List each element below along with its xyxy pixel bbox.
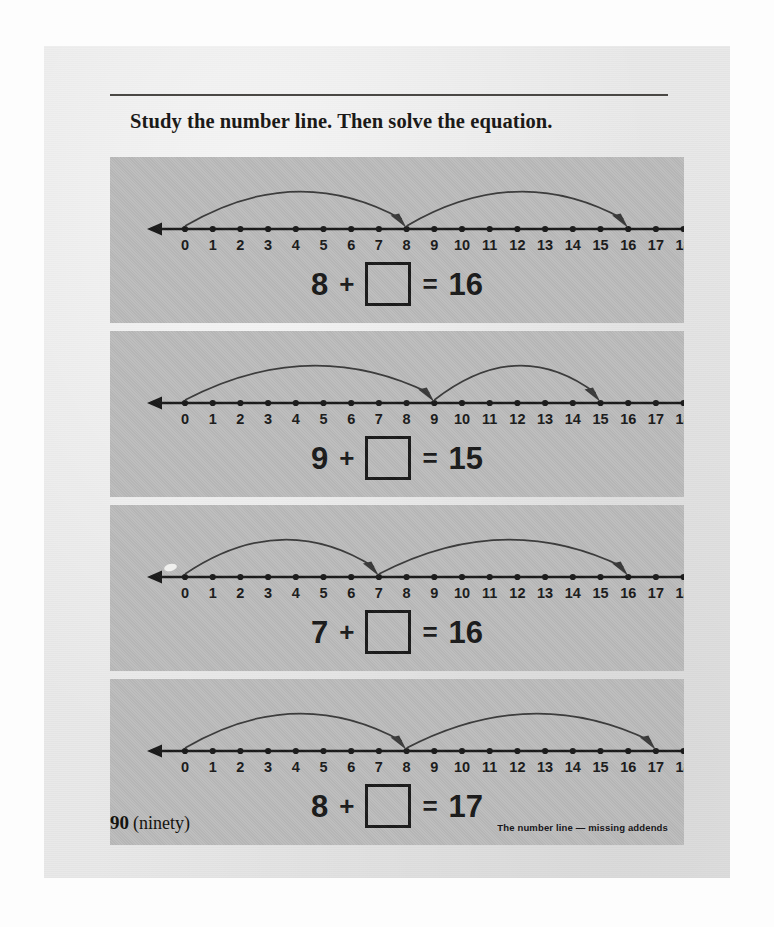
tick-label: 5 (319, 411, 327, 427)
exercise-panel: 01234567891011121314151617188+=16 (110, 157, 684, 323)
tick-label: 4 (292, 759, 300, 775)
plus-sign: + (339, 619, 354, 645)
tick-label: 11 (482, 411, 497, 427)
missing-addend-answer-box[interactable] (365, 262, 411, 306)
tick-label: 15 (592, 585, 608, 601)
tick-label: 11 (482, 585, 497, 601)
tick-dot (514, 574, 520, 580)
tick-label: 8 (403, 411, 411, 427)
missing-addend-answer-box[interactable] (365, 610, 411, 654)
tick-dot (348, 400, 354, 406)
tick-label: 1 (209, 237, 217, 253)
tick-dot (376, 748, 382, 754)
tick-dot (570, 226, 576, 232)
plus-sign: + (339, 445, 354, 471)
jump-arc-second (407, 192, 624, 226)
tick-label: 14 (565, 411, 581, 427)
tick-label: 3 (264, 237, 272, 253)
tick-label: 0 (181, 237, 189, 253)
jump-arc-second-arrowhead (640, 736, 656, 751)
tick-label: 15 (592, 237, 608, 253)
tick-label: 4 (292, 237, 300, 253)
tick-dot (376, 574, 382, 580)
tick-dot (542, 400, 548, 406)
tick-dot (237, 226, 243, 232)
tick-dot (320, 400, 326, 406)
plus-sign: + (339, 271, 354, 297)
equation-sum: 16 (449, 617, 483, 648)
tick-label: 5 (319, 237, 327, 253)
tick-dot (542, 574, 548, 580)
tick-label: 16 (620, 411, 636, 427)
tick-label: 7 (375, 585, 383, 601)
tick-dot (404, 574, 410, 580)
tick-label: 3 (264, 411, 272, 427)
equation-first-addend: 8 (311, 269, 328, 300)
tick-dot (681, 574, 685, 580)
missing-addend-answer-box[interactable] (365, 784, 411, 828)
tick-dot (210, 574, 216, 580)
tick-dot (293, 400, 299, 406)
lesson-caption: The number line — missing addends (497, 822, 668, 833)
tick-dot (293, 748, 299, 754)
tick-label: 1 (209, 759, 217, 775)
tick-label: 7 (375, 237, 383, 253)
tick-label: 9 (430, 759, 438, 775)
tick-dot (404, 748, 410, 754)
tick-dot (265, 226, 271, 232)
tick-label: 8 (403, 585, 411, 601)
tick-dot (404, 226, 410, 232)
equation-sum: 16 (449, 269, 483, 300)
tick-label: 15 (592, 411, 608, 427)
jump-arc-first-arrowhead (391, 214, 407, 229)
tick-dot (459, 574, 465, 580)
jump-arc-first (185, 540, 374, 574)
tick-label: 18 (676, 411, 684, 427)
tick-label: 6 (347, 411, 355, 427)
tick-label: 11 (482, 759, 497, 775)
equation-first-addend: 9 (311, 443, 328, 474)
tick-dot (376, 226, 382, 232)
tick-dot (514, 400, 520, 406)
instruction-text: Study the number line. Then solve the eq… (130, 110, 553, 133)
tick-label: 14 (565, 237, 581, 253)
tick-dot (625, 748, 631, 754)
jump-arc-first (185, 366, 429, 400)
tick-label: 12 (509, 237, 525, 253)
equals-sign: = (422, 619, 437, 645)
tick-label: 8 (403, 237, 411, 253)
tick-dot (320, 574, 326, 580)
tick-dot (293, 226, 299, 232)
header-rule (110, 94, 668, 96)
tick-dot (237, 574, 243, 580)
tick-dot (348, 226, 354, 232)
tick-label: 13 (537, 411, 553, 427)
tick-dot (348, 574, 354, 580)
missing-addend-answer-box[interactable] (365, 436, 411, 480)
tick-dot (320, 226, 326, 232)
tick-label: 16 (620, 237, 636, 253)
tick-label: 0 (181, 585, 189, 601)
jump-arc-second-arrowhead (612, 214, 628, 229)
tick-label: 12 (509, 411, 525, 427)
tick-dot (487, 574, 493, 580)
tick-dot (487, 400, 493, 406)
tick-dot (376, 400, 382, 406)
exercise-panel: 01234567891011121314151617187+=16 (110, 505, 684, 671)
tick-label: 10 (454, 411, 470, 427)
tick-label: 14 (565, 585, 581, 601)
equation-first-addend: 8 (311, 791, 328, 822)
tick-label: 4 (292, 585, 300, 601)
tick-dot (459, 226, 465, 232)
axis-arrow-left (147, 223, 162, 236)
tick-label: 9 (430, 585, 438, 601)
tick-dot (210, 226, 216, 232)
tick-dot (320, 748, 326, 754)
tick-label: 13 (537, 585, 553, 601)
tick-dot (514, 748, 520, 754)
tick-label: 17 (648, 237, 664, 253)
equation-row: 8+=16 (110, 253, 684, 315)
tick-label: 14 (565, 759, 581, 775)
tick-dot (625, 574, 631, 580)
tick-label: 0 (181, 411, 189, 427)
